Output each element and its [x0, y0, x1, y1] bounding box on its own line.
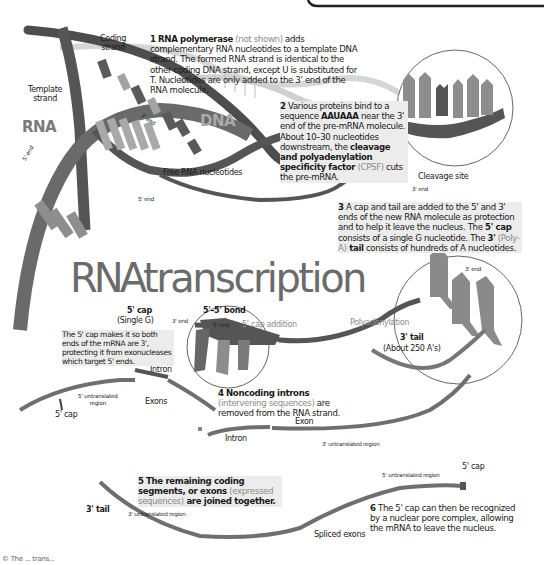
utr5-bottom-label: 5' untranslated region — [382, 472, 440, 479]
cleavage-site-label: Cleavage site — [418, 172, 468, 181]
utr5-left-label: 5' untranslated region — [78, 393, 118, 406]
spliced-exons-label: Spliced exons — [314, 530, 365, 539]
frame-edge — [308, 0, 544, 6]
rna-label: RNA — [22, 118, 56, 136]
step-3-text: 3 A cap and tail are added to the 5' and… — [338, 202, 522, 253]
polyadenylation-label: Polyadenylation — [350, 318, 409, 327]
exons-label: Exons — [145, 397, 167, 406]
three-tail-label: 3' tail — [400, 333, 423, 342]
title-rest: transcription — [143, 255, 365, 301]
five-five-bond-label: 5'–5' bond — [203, 306, 245, 315]
template-strand-label: Template strand — [28, 85, 62, 103]
free-nucleotides-label: Free RNA nucleotides — [163, 168, 242, 177]
utr3-mid-label: 3' untranslated region — [322, 441, 380, 448]
page-title: RNAtranscription — [70, 255, 365, 301]
three-tail-bottom-label: 3' tail — [86, 505, 109, 514]
cap-addition-label: 5' cap addition — [242, 320, 297, 329]
step-5-text: 5 The remaining coding segments, or exon… — [138, 476, 282, 507]
step-4-text: 4 Noncoding introns (intervening sequenc… — [218, 388, 350, 419]
cap-three-end-label: 3' end — [172, 318, 188, 325]
intron-label-2: Intron — [225, 434, 247, 443]
title-rna: RNA — [70, 255, 143, 301]
footer-credit: © The ... trans... — [2, 555, 55, 564]
five-cap-label: 5' cap — [127, 306, 152, 315]
step-2-text: 2 Various proteins bind to a sequence AA… — [280, 101, 408, 183]
three-end-cleave-label: 3' end — [412, 186, 428, 193]
step-6-text: 6 The 5' cap can then be recognized by a… — [370, 503, 520, 534]
coding-strand-label: Coding strand — [100, 34, 126, 52]
five-cap-bottom-label: 5' cap — [462, 462, 484, 471]
cap-five-end-label: 5' end — [213, 322, 229, 329]
about-250-label: (About 250 A's) — [383, 344, 441, 353]
utr3-bottom-label: 3' untranslated region — [128, 511, 186, 518]
tail-three-end-label: 3' end — [465, 266, 481, 273]
five-end-mid-label: 5' end — [138, 196, 154, 203]
single-g-label: (Single G) — [117, 316, 154, 325]
intron-label-1: Intron — [150, 365, 172, 374]
cap-note-text: The 5' cap makes it so both ends of the … — [62, 330, 174, 366]
step-1-text: 1 RNA polymerase (not shown) adds comple… — [150, 34, 360, 95]
dna-label: DNA — [200, 112, 235, 130]
five-cap-left-label: 5' cap — [55, 410, 77, 419]
